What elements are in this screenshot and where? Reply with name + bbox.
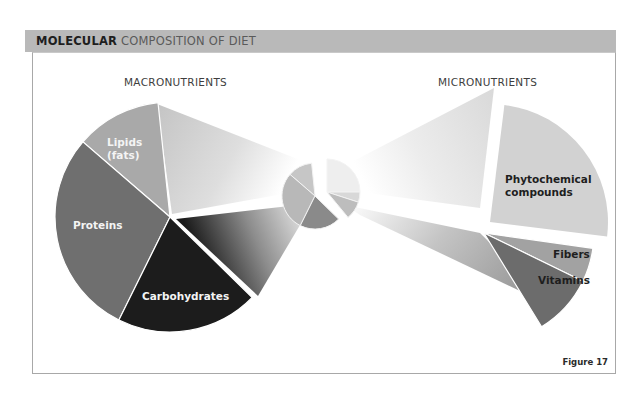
label-vitamins: Vitamins: [538, 274, 590, 287]
label-phyto-line1: Phytochemical: [505, 173, 592, 186]
label-lipids-line2: (fats): [107, 149, 142, 162]
macronutrients-label: MACRONUTRIENTS: [124, 76, 227, 88]
figure-number: Figure 17: [562, 357, 608, 367]
label-phyto-line2: compounds: [505, 186, 592, 199]
micronutrients-pie: [484, 105, 608, 327]
label-carbohydrates: Carbohydrates: [142, 290, 229, 303]
label-lipids: Lipids (fats): [107, 136, 142, 162]
slice-phytochemical-compounds: [490, 105, 608, 237]
label-proteins: Proteins: [73, 219, 123, 232]
label-phytochemical: Phytochemical compounds: [505, 173, 592, 199]
label-fibers: Fibers: [553, 248, 590, 261]
label-lipids-line1: Lipids: [107, 136, 142, 149]
micronutrients-label: MICRONUTRIENTS: [438, 76, 537, 88]
micro-funnel-upper: [340, 88, 494, 208]
